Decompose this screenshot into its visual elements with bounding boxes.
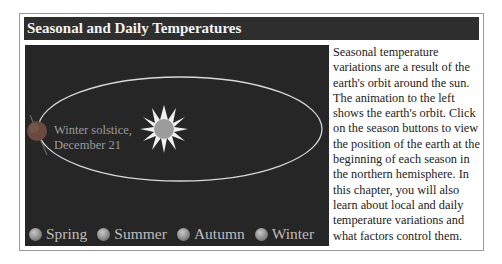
sun-icon: [140, 105, 188, 153]
summer-button[interactable]: Summer: [97, 225, 167, 243]
season-caption: Winter solstice, December 21: [54, 123, 132, 153]
summer-label: Summer: [114, 225, 167, 243]
content-panel: Seasonal and Daily Temperatures Winter s…: [19, 13, 484, 251]
caption-line-2: December 21: [54, 138, 132, 153]
radio-ball-icon: [97, 228, 110, 241]
orbit-animation[interactable]: Winter solstice, December 21 Spring Summ…: [25, 45, 329, 246]
description-text: Seasonal temperature variations are a re…: [333, 45, 483, 244]
caption-line-1: Winter solstice,: [54, 123, 132, 138]
spring-button[interactable]: Spring: [29, 225, 87, 243]
radio-ball-icon: [255, 228, 268, 241]
page-title: Seasonal and Daily Temperatures: [24, 17, 479, 40]
winter-label: Winter: [272, 225, 314, 243]
radio-ball-icon: [177, 228, 190, 241]
season-buttons: Spring Summer Autumn Winter: [29, 225, 324, 243]
radio-ball-icon: [29, 228, 42, 241]
earth-icon: [27, 115, 47, 155]
autumn-label: Autumn: [194, 225, 245, 243]
winter-button[interactable]: Winter: [255, 225, 314, 243]
spring-label: Spring: [46, 225, 87, 243]
autumn-button[interactable]: Autumn: [177, 225, 245, 243]
